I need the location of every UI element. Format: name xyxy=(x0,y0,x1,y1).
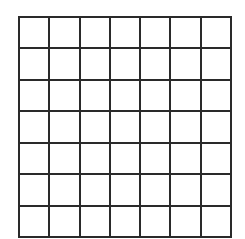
board-cell-r4-c2[interactable] xyxy=(81,144,109,173)
game-board xyxy=(18,16,232,238)
board-cell-r2-c3[interactable] xyxy=(111,81,139,110)
board-cell-r0-c3[interactable] xyxy=(111,18,139,47)
board-cell-r2-c4[interactable] xyxy=(141,81,169,110)
board-cell-r1-c0[interactable] xyxy=(20,49,48,78)
board-cell-r5-c6[interactable] xyxy=(202,175,230,204)
board-cell-r2-c5[interactable] xyxy=(171,81,199,110)
board-cell-r4-c4[interactable] xyxy=(141,144,169,173)
board-cell-r5-c3[interactable] xyxy=(111,175,139,204)
board-cell-r5-c4[interactable] xyxy=(141,175,169,204)
board-cell-r4-c5[interactable] xyxy=(171,144,199,173)
board-cell-r0-c4[interactable] xyxy=(141,18,169,47)
board-cell-r2-c6[interactable] xyxy=(202,81,230,110)
board-cell-r2-c2[interactable] xyxy=(81,81,109,110)
board-cell-r5-c5[interactable] xyxy=(171,175,199,204)
board-cell-r6-c0[interactable] xyxy=(20,207,48,236)
board-cell-r3-c0[interactable] xyxy=(20,112,48,141)
board-cell-r5-c1[interactable] xyxy=(50,175,78,204)
board-cell-r0-c1[interactable] xyxy=(50,18,78,47)
board-cell-r6-c6[interactable] xyxy=(202,207,230,236)
board-cell-r3-c2[interactable] xyxy=(81,112,109,141)
board-cell-r6-c5[interactable] xyxy=(171,207,199,236)
board-cell-r1-c2[interactable] xyxy=(81,49,109,78)
board-cell-r1-c5[interactable] xyxy=(171,49,199,78)
board-cell-r6-c2[interactable] xyxy=(81,207,109,236)
board-cell-r3-c5[interactable] xyxy=(171,112,199,141)
board-cell-r4-c0[interactable] xyxy=(20,144,48,173)
board-cell-r5-c0[interactable] xyxy=(20,175,48,204)
board-cell-r0-c2[interactable] xyxy=(81,18,109,47)
board-cell-r1-c3[interactable] xyxy=(111,49,139,78)
board-cell-r1-c1[interactable] xyxy=(50,49,78,78)
board-cell-r0-c0[interactable] xyxy=(20,18,48,47)
board-cell-r4-c6[interactable] xyxy=(202,144,230,173)
board-cell-r0-c6[interactable] xyxy=(202,18,230,47)
board-cell-r3-c1[interactable] xyxy=(50,112,78,141)
board-cell-r5-c2[interactable] xyxy=(81,175,109,204)
board-cell-r6-c1[interactable] xyxy=(50,207,78,236)
board-cell-r1-c4[interactable] xyxy=(141,49,169,78)
board-cell-r1-c6[interactable] xyxy=(202,49,230,78)
board-cell-r0-c5[interactable] xyxy=(171,18,199,47)
board-cell-r6-c4[interactable] xyxy=(141,207,169,236)
board-cell-r4-c3[interactable] xyxy=(111,144,139,173)
board-cell-r6-c3[interactable] xyxy=(111,207,139,236)
board-cell-r3-c4[interactable] xyxy=(141,112,169,141)
board-cell-r3-c6[interactable] xyxy=(202,112,230,141)
board-cell-r3-c3[interactable] xyxy=(111,112,139,141)
board-cell-r2-c1[interactable] xyxy=(50,81,78,110)
board-cell-r2-c0[interactable] xyxy=(20,81,48,110)
board-cell-r4-c1[interactable] xyxy=(50,144,78,173)
